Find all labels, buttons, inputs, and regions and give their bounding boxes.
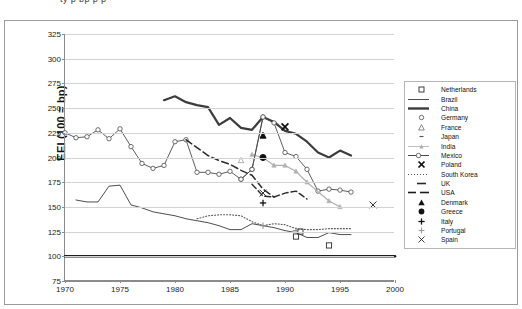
cropped-text-fragment: ty p bp p p bbox=[0, 0, 522, 14]
x-tick-label-1985: 1985 bbox=[221, 285, 239, 294]
x-tick-mark bbox=[175, 280, 176, 283]
y-tick-mark bbox=[62, 207, 65, 208]
marker-netherlands bbox=[326, 243, 331, 248]
legend-item-france[interactable]: France bbox=[407, 123, 513, 132]
legend-label: Denmark bbox=[441, 198, 468, 207]
marker-germany bbox=[338, 188, 342, 192]
legend-label: Germany bbox=[441, 113, 468, 122]
y-tick-mark bbox=[62, 256, 65, 257]
legend-item-denmark[interactable]: Denmark bbox=[407, 198, 513, 207]
marker-germany bbox=[96, 128, 100, 132]
x-tick-mark bbox=[65, 280, 66, 283]
legend-key-dash-icon bbox=[407, 179, 441, 188]
y-tick-mark bbox=[62, 133, 65, 134]
y-tick-label-225: 225 bbox=[48, 128, 61, 137]
legend-key-open-circle-icon bbox=[407, 113, 441, 122]
marker-germany bbox=[118, 127, 122, 131]
y-tick-mark bbox=[62, 34, 65, 35]
marker-germany bbox=[129, 144, 133, 148]
legend-item-portugal[interactable]: Portugal bbox=[407, 226, 513, 235]
x-tick-label-1990: 1990 bbox=[276, 285, 294, 294]
legend-label: Italy bbox=[441, 217, 453, 226]
legend-item-mexico[interactable]: Mexico bbox=[407, 151, 513, 160]
chart-page: ty p bp p p EEI (100 = bp) 7510012515017… bbox=[0, 0, 522, 309]
legend-label: USA bbox=[441, 188, 455, 197]
legend-label: Japan bbox=[441, 132, 459, 141]
y-tick-label-150: 150 bbox=[48, 202, 61, 211]
legend-item-netherlands[interactable]: Netherlands bbox=[407, 85, 513, 94]
gridline-y-225 bbox=[65, 133, 394, 134]
y-tick-label-125: 125 bbox=[48, 227, 61, 236]
marker-mexico bbox=[261, 115, 265, 119]
marker-germany bbox=[217, 172, 221, 176]
marker-germany bbox=[195, 170, 199, 174]
gridline-y-200 bbox=[65, 158, 394, 159]
marker-portugal bbox=[260, 222, 266, 228]
legend-label: Spain bbox=[441, 235, 458, 244]
y-tick-label-325: 325 bbox=[48, 30, 61, 39]
series-line-germany bbox=[65, 117, 351, 192]
legend-key-thin-x-icon bbox=[407, 235, 441, 244]
series-line-france-trend bbox=[186, 140, 274, 197]
marker-germany bbox=[283, 150, 287, 154]
legend-item-usa[interactable]: USA bbox=[407, 188, 513, 197]
x-tick-label-1975: 1975 bbox=[111, 285, 129, 294]
x-tick-label-1980: 1980 bbox=[166, 285, 184, 294]
legend-item-china[interactable]: China bbox=[407, 104, 513, 113]
legend-label: Netherlands bbox=[441, 85, 477, 94]
gridline-y-275 bbox=[65, 83, 394, 84]
legend-item-poland[interactable]: Poland bbox=[407, 160, 513, 169]
legend-label: France bbox=[441, 123, 462, 132]
marker-germany bbox=[206, 170, 210, 174]
marker-india bbox=[250, 152, 254, 156]
legend-key-bold-x-icon bbox=[407, 160, 441, 169]
y-tick-mark bbox=[62, 158, 65, 159]
x-tick-mark bbox=[340, 280, 341, 283]
legend-key-line-circle-icon bbox=[407, 151, 441, 160]
legend-key-gray-line-triangle-icon bbox=[407, 142, 441, 151]
marker-germany bbox=[228, 169, 232, 173]
legend-label: Mexico bbox=[441, 151, 462, 160]
marker-netherlands bbox=[293, 234, 298, 239]
marker-mexico bbox=[239, 177, 243, 181]
y-tick-mark bbox=[62, 182, 65, 183]
y-tick-label-275: 275 bbox=[48, 79, 61, 88]
gridline-y-175 bbox=[65, 182, 394, 183]
legend-key-open-square-icon bbox=[407, 85, 441, 94]
legend-key-filled-circle-icon bbox=[407, 207, 441, 216]
legend-label: India bbox=[441, 142, 455, 151]
legend-label: Greece bbox=[441, 207, 463, 216]
y-tick-label-100: 100 bbox=[48, 252, 61, 261]
gridline-y-125 bbox=[65, 232, 394, 233]
legend-item-italy[interactable]: Italy bbox=[407, 216, 513, 225]
legend-label: Poland bbox=[441, 160, 462, 169]
legend-item-india[interactable]: India bbox=[407, 141, 513, 150]
gridline-y-325 bbox=[65, 34, 394, 35]
marker-germany bbox=[85, 135, 89, 139]
marker-poland bbox=[282, 123, 289, 130]
legend-item-uk[interactable]: UK bbox=[407, 179, 513, 188]
legend-item-spain[interactable]: Spain bbox=[407, 235, 513, 244]
marker-germany bbox=[151, 166, 155, 170]
y-tick-mark bbox=[62, 108, 65, 109]
legend-item-japan[interactable]: Japan bbox=[407, 132, 513, 141]
legend-key-open-triangle-icon bbox=[407, 123, 441, 132]
x-tick-label-1970: 1970 bbox=[56, 285, 74, 294]
legend-label: Brazil bbox=[441, 95, 458, 104]
x-tick-mark bbox=[120, 280, 121, 283]
legend-key-long-dash-icon bbox=[407, 188, 441, 197]
legend-label: Portugal bbox=[441, 226, 466, 235]
y-tick-mark bbox=[62, 232, 65, 233]
legend-key-thin-line-icon bbox=[407, 95, 441, 104]
marker-germany bbox=[74, 136, 78, 140]
legend-item-germany[interactable]: Germany bbox=[407, 113, 513, 122]
y-tick-mark bbox=[62, 83, 65, 84]
legend-item-brazil[interactable]: Brazil bbox=[407, 94, 513, 103]
marker-germany bbox=[173, 139, 177, 143]
legend-item-greece[interactable]: Greece bbox=[407, 207, 513, 216]
marker-germany bbox=[107, 137, 111, 141]
marker-germany bbox=[140, 161, 144, 165]
cropped-text-line: ty p bp p p bbox=[60, 0, 500, 4]
series-line-india bbox=[252, 155, 340, 207]
legend-item-south-korea[interactable]: South Korea bbox=[407, 170, 513, 179]
